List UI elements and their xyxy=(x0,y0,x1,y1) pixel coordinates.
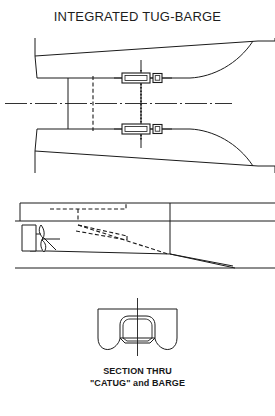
barge-wing-lower xyxy=(35,151,275,173)
skeg-hidden-lower xyxy=(76,231,127,240)
integrated-tug-barge-figure: INTEGRATED TUG-BARGE xyxy=(0,0,275,416)
caption-line-1: SECTION THRU xyxy=(0,366,275,376)
coupling-lower-pin-head-inner xyxy=(155,127,160,132)
barge-wing-upper-inner-edge xyxy=(35,56,190,78)
coupling-upper-block-inner xyxy=(125,76,147,81)
coupling-lower-block-inner xyxy=(125,127,147,132)
notch-hidden-outline xyxy=(50,203,126,209)
rudder xyxy=(22,225,36,251)
coupling-upper-pin-head-inner xyxy=(155,76,160,81)
plan-view xyxy=(0,38,275,173)
notch-curve-upper xyxy=(190,41,253,78)
section-view xyxy=(0,294,275,364)
notch-curve-lower xyxy=(190,129,253,166)
coupling-upper xyxy=(114,73,172,83)
tug-hull-bottom xyxy=(48,251,170,254)
skeg-hidden-upper xyxy=(78,225,127,236)
figure-title: INTEGRATED TUG-BARGE xyxy=(0,9,275,24)
stern-rake-line-lower xyxy=(170,254,233,266)
caption-line-2: "CATUG" and BARGE xyxy=(0,378,275,388)
notch-hidden-diagonal xyxy=(78,225,168,254)
coupling-lower xyxy=(114,124,172,134)
profile-view xyxy=(0,178,275,283)
barge-wing-upper xyxy=(35,38,275,56)
barge-wing-lower-inner-edge xyxy=(35,129,190,151)
